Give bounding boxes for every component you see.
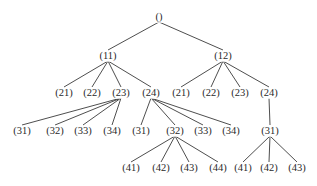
tree-node-n12_22: (22) xyxy=(201,88,221,99)
tree-node-n24_33: (33) xyxy=(193,126,213,137)
tree-node-n23_34: (34) xyxy=(102,126,122,137)
tree-edge xyxy=(243,136,270,162)
tree-node-n23_33: (33) xyxy=(73,126,93,137)
tree-edge xyxy=(175,136,218,162)
tree-node-root: () xyxy=(155,12,164,23)
tree-node-n32_42: (42) xyxy=(151,163,171,174)
tree-node-n23_31: (31) xyxy=(12,126,32,137)
tree-edge xyxy=(112,98,121,125)
tree-edge xyxy=(141,98,151,125)
tree-edge xyxy=(223,61,240,87)
tree-node-n12_23: (23) xyxy=(230,88,250,99)
tree-diagram: ()(11)(12)(21)(22)(23)(24)(21)(22)(23)(2… xyxy=(0,0,317,186)
tree-node-n31_42: (42) xyxy=(259,163,279,174)
tree-node-n11_24: (24) xyxy=(141,88,161,99)
tree-edge xyxy=(108,22,159,50)
tree-node-n11_22: (22) xyxy=(82,88,102,99)
tree-edge xyxy=(269,98,270,125)
tree-node-n11_21: (21) xyxy=(54,88,74,99)
tree-edge xyxy=(223,61,269,87)
tree-node-n12: (12) xyxy=(213,51,233,62)
tree-edge xyxy=(64,61,108,87)
tree-edge xyxy=(159,22,223,50)
tree-node-n32_44: (44) xyxy=(208,163,228,174)
tree-edge xyxy=(92,61,108,87)
tree-node-n24_31: (31) xyxy=(131,126,151,137)
tree-node-n12_24_31: (31) xyxy=(260,126,280,137)
tree-node-n12_24: (24) xyxy=(259,88,279,99)
tree-edge xyxy=(269,136,270,162)
tree-node-n32_43: (43) xyxy=(179,163,199,174)
tree-edge xyxy=(151,98,203,125)
tree-node-n32_41: (41) xyxy=(121,163,141,174)
tree-node-n24_34: (34) xyxy=(221,126,241,137)
tree-node-n31_41: (41) xyxy=(233,163,253,174)
tree-node-n24_32: (32) xyxy=(165,126,185,137)
tree-node-n12_21: (21) xyxy=(171,88,191,99)
tree-node-n23_32: (32) xyxy=(45,126,65,137)
tree-node-n11_23: (23) xyxy=(111,88,131,99)
tree-node-n31_43: (43) xyxy=(287,163,307,174)
tree-edge xyxy=(22,98,121,125)
tree-edge xyxy=(270,136,297,162)
tree-node-n11: (11) xyxy=(98,51,117,62)
